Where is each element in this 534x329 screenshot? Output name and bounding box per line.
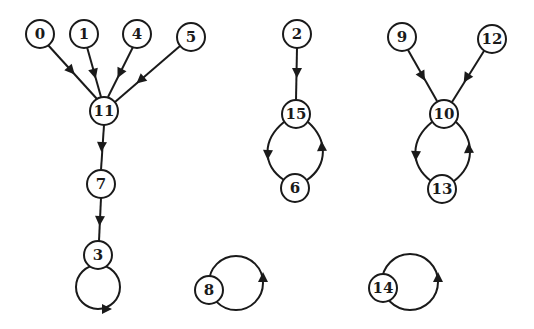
edge-10-13: [411, 122, 432, 181]
node-14[interactable]: 14: [369, 274, 397, 302]
edge-3-self-loop: [76, 265, 120, 314]
node-label: 9: [397, 28, 407, 46]
node-9[interactable]: 9: [388, 23, 416, 51]
arrowhead-icon: [258, 272, 268, 282]
edge-7-3: [95, 198, 105, 241]
arrowhead-icon: [96, 142, 107, 153]
node-label: 1: [79, 25, 89, 43]
node-13[interactable]: 13: [428, 175, 456, 203]
node-3[interactable]: 3: [84, 241, 112, 269]
arrowhead-icon: [433, 272, 443, 282]
node-label: 7: [96, 175, 106, 193]
graph-canvas: 0 1 4 5 11 7 3 2 15 6 9 12 10 13 8 14: [0, 0, 534, 329]
node-label: 2: [292, 25, 302, 43]
edge-9-10: [408, 50, 437, 101]
node-label: 5: [186, 28, 196, 46]
node-label: 12: [482, 30, 503, 48]
arrowhead-icon: [317, 141, 327, 151]
edge-13-10: [454, 122, 474, 181]
node-11[interactable]: 11: [90, 97, 118, 125]
node-12[interactable]: 12: [478, 25, 506, 53]
arrowhead-icon: [411, 151, 421, 161]
node-15[interactable]: 15: [282, 100, 310, 128]
arrowhead-icon: [263, 150, 273, 160]
node-1[interactable]: 1: [70, 20, 98, 48]
node-label: 11: [94, 102, 115, 120]
arrowhead-icon: [88, 68, 100, 80]
arrowhead-icon: [459, 71, 473, 85]
node-label: 0: [35, 25, 45, 43]
arrowhead-icon: [292, 68, 302, 78]
edge-6-15: [307, 122, 327, 180]
edge-2-15: [292, 48, 302, 100]
arrowhead-icon: [113, 67, 126, 80]
node-6[interactable]: 6: [281, 174, 309, 202]
edge-11-7: [96, 125, 107, 170]
node-4[interactable]: 4: [123, 20, 151, 48]
node-label: 4: [132, 25, 142, 43]
arrowhead-icon: [95, 216, 105, 226]
node-label: 10: [434, 105, 455, 123]
edge-5-11: [115, 46, 180, 102]
arrowhead-icon: [464, 143, 474, 153]
node-label: 3: [93, 246, 103, 264]
node-label: 8: [204, 281, 214, 299]
node-label: 13: [432, 180, 453, 198]
node-label: 15: [286, 105, 307, 123]
node-10[interactable]: 10: [430, 100, 458, 128]
node-label: 6: [290, 179, 300, 197]
node-2[interactable]: 2: [283, 20, 311, 48]
node-label: 14: [373, 279, 394, 297]
node-8[interactable]: 8: [195, 276, 223, 304]
edge-12-10: [452, 51, 484, 102]
arrowhead-icon: [416, 70, 430, 84]
edge-15-6: [263, 122, 284, 180]
node-7[interactable]: 7: [87, 170, 115, 198]
node-0[interactable]: 0: [26, 20, 54, 48]
node-5[interactable]: 5: [177, 23, 205, 51]
